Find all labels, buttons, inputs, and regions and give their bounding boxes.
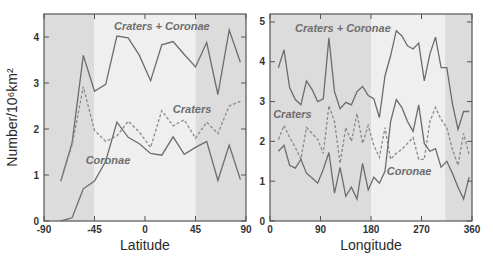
series-annotation: Craters + Coronae: [295, 22, 391, 34]
shaded-band-dark: [196, 14, 247, 221]
y-tick-label: 2: [259, 136, 265, 147]
y-tick-label: 3: [259, 96, 265, 107]
longitude-chart-panel: 090180270360012345Craters + CoronaeCrate…: [259, 14, 480, 253]
series-annotation: Coronae: [86, 154, 131, 166]
y-tick-label: 1: [33, 170, 39, 181]
y-axis-title: Number/10⁶km²: [4, 68, 20, 167]
x-tick-label: 45: [190, 224, 202, 235]
series-annotation: Craters: [173, 103, 212, 115]
y-tick-label: 0: [33, 216, 39, 227]
y-tick-label: 3: [33, 78, 39, 89]
series-annotation: Coronae: [387, 165, 432, 177]
x-tick-label: 180: [363, 224, 380, 235]
y-tick-label: 4: [259, 56, 265, 67]
x-axis-title: Longitude: [340, 237, 402, 253]
shaded-band-dark: [44, 14, 95, 221]
series-annotation: Craters + Coronae: [114, 20, 210, 32]
y-tick-label: 0: [259, 216, 265, 227]
x-tick-label: 270: [413, 224, 430, 235]
y-tick-label: 5: [259, 16, 265, 27]
latitude-chart-panel: -90-450459001234Craters + CoronaeCraters…: [4, 14, 252, 253]
x-tick-label: -90: [37, 224, 52, 235]
y-tick-label: 2: [33, 124, 39, 135]
shaded-band-light: [371, 14, 445, 221]
x-tick-label: 0: [142, 224, 148, 235]
y-tick-label: 1: [259, 176, 265, 187]
x-tick-label: -45: [87, 224, 102, 235]
series-annotation: Craters: [273, 108, 312, 120]
y-tick-label: 4: [33, 32, 39, 43]
chart-figure: -90-450459001234Craters + CoronaeCraters…: [0, 0, 493, 262]
x-tick-label: 0: [267, 224, 273, 235]
x-tick-label: 90: [315, 224, 327, 235]
shaded-band-light: [95, 14, 196, 221]
shaded-band-dark: [445, 14, 472, 221]
x-tick-label: 360: [464, 224, 481, 235]
x-tick-label: 90: [240, 224, 252, 235]
x-axis-title: Latitude: [120, 237, 170, 253]
